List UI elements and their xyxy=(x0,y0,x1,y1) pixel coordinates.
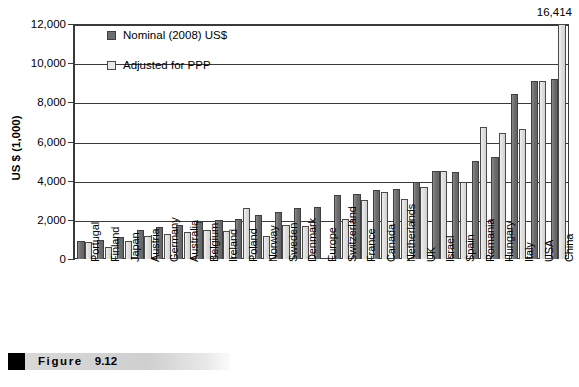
y-axis-tick-label: 6,000 xyxy=(37,136,66,148)
bar-nominal[interactable] xyxy=(77,241,84,259)
bar-ppp[interactable] xyxy=(558,24,565,259)
x-axis-label: France xyxy=(365,228,377,262)
x-axis-label: Ireland xyxy=(227,229,239,262)
bar-nominal[interactable] xyxy=(531,81,538,259)
x-axis-label: Germany xyxy=(168,217,180,262)
x-axis-label: UK xyxy=(425,247,437,262)
x-axis-label: Spain xyxy=(464,234,476,262)
x-axis-label: Canada xyxy=(385,224,397,262)
bar-group xyxy=(430,24,450,259)
y-axis-tick-label: 10,000 xyxy=(31,57,66,69)
bar-group xyxy=(450,24,470,259)
bar-group xyxy=(252,24,272,259)
figure-container: 16,414 US $ (1,000) 02,0004,0006,0008,00… xyxy=(0,0,579,387)
x-axis-label: USA xyxy=(543,240,555,262)
x-axis-label: Australia xyxy=(188,220,200,262)
y-axis-title: US $ (1,000) xyxy=(10,98,22,198)
x-axis-label: Japan xyxy=(129,233,141,262)
x-axis-label: China xyxy=(563,234,575,262)
caption-figure-number: 9.12 xyxy=(95,355,117,367)
bar-group xyxy=(548,24,568,259)
x-axis-label: Switzerland xyxy=(346,206,358,262)
x-axis-labels: PortugalFinlandJapanAustriaGermanyAustra… xyxy=(75,262,568,340)
bar-nominal[interactable] xyxy=(551,79,558,259)
bar-nominal[interactable] xyxy=(432,171,439,259)
x-axis-label: Netherlands xyxy=(405,204,417,262)
y-axis-tick-label: 12,000 xyxy=(31,18,66,30)
x-axis-label: Norway xyxy=(267,225,279,262)
x-axis-label: Austria xyxy=(149,228,161,262)
x-axis-label: Europe xyxy=(326,227,338,262)
bar-group xyxy=(529,24,549,259)
bar-group xyxy=(233,24,253,259)
caption-figure-word: Figure xyxy=(38,355,83,367)
x-axis-label: Italy xyxy=(523,242,535,262)
bar-ppp[interactable] xyxy=(519,129,526,259)
x-axis-label: Hungary xyxy=(503,221,515,262)
x-axis-label: Belgium xyxy=(208,223,220,262)
y-axis-tick-label: 2,000 xyxy=(37,214,66,226)
x-axis-label: Sweden xyxy=(287,223,299,262)
x-axis-label: Portugal xyxy=(89,222,101,262)
x-axis-label: Israel xyxy=(444,236,456,262)
caption-marker-icon xyxy=(8,353,25,370)
y-axis-tick-label: 4,000 xyxy=(37,175,66,187)
bar-ppp[interactable] xyxy=(539,81,546,259)
bar-group xyxy=(114,24,134,259)
bar-group xyxy=(134,24,154,259)
x-axis-label: Romania xyxy=(484,219,496,262)
x-axis-label: Finland xyxy=(109,227,121,262)
y-axis: US $ (1,000) 02,0004,0006,0008,00010,000… xyxy=(0,0,66,387)
x-axis-label: Poland xyxy=(247,228,259,262)
figure-caption: Figure 9.12 xyxy=(8,352,230,370)
y-axis-tick-mark xyxy=(68,259,74,260)
y-axis-tick-label: 0 xyxy=(60,253,66,265)
x-axis-label: Denmark xyxy=(306,218,318,262)
caption-bar: Figure 9.12 xyxy=(25,353,230,370)
y-axis-tick-label: 8,000 xyxy=(37,96,66,108)
